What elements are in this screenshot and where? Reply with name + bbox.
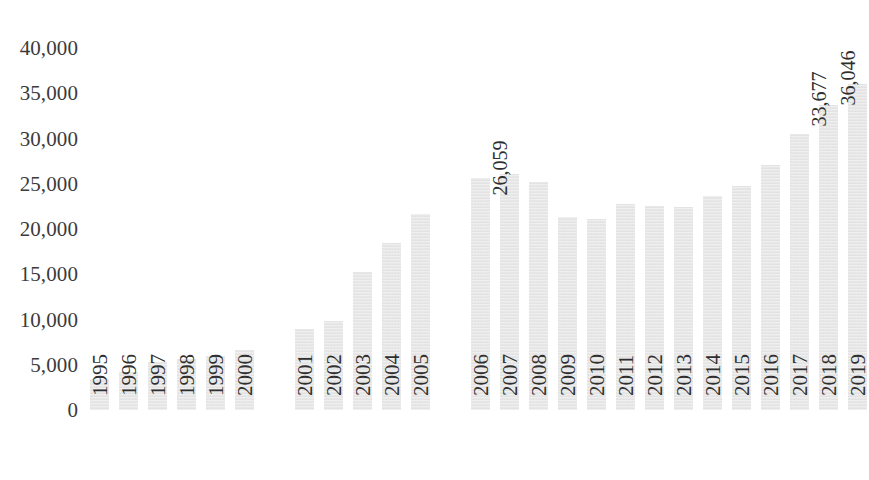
- bar-column: 1995: [90, 48, 109, 410]
- bar-column: 2015: [732, 48, 751, 410]
- x-axis-tick-label: 2010: [586, 354, 607, 396]
- bar-column: 2004: [382, 48, 401, 410]
- x-axis-tick-label: 1999: [205, 354, 226, 396]
- bar-column: 2013: [674, 48, 693, 410]
- x-axis-tick-label: 2000: [234, 354, 255, 396]
- x-axis-tick-label: 2001: [294, 354, 315, 396]
- bar-column: 2002: [324, 48, 343, 410]
- x-axis-tick-label: 2018: [818, 354, 839, 396]
- bar-column: 26,0592007: [500, 48, 519, 410]
- bar-value-label: 26,059: [490, 141, 510, 196]
- bar-column: 2017: [790, 48, 809, 410]
- x-axis-tick-label: 2017: [789, 354, 810, 396]
- x-axis-tick-label: 2011: [615, 355, 636, 396]
- bar-value-label: 36,046: [838, 50, 858, 105]
- y-axis-tick-label: 30,000: [20, 128, 78, 149]
- y-axis-tick-label: 40,000: [20, 38, 78, 59]
- y-axis-tick-label: 5,000: [30, 354, 78, 375]
- x-axis-tick-label: 2005: [410, 354, 431, 396]
- bar-value-label: 33,677: [809, 72, 829, 127]
- bar-column: 2014: [703, 48, 722, 410]
- y-axis: 40,00035,00030,00025,00020,00015,00010,0…: [0, 0, 86, 480]
- x-axis-tick-label: 1997: [147, 354, 168, 396]
- x-axis-tick-label: 2009: [557, 354, 578, 396]
- x-axis-tick-label: 1998: [176, 354, 197, 396]
- bar-column: 33,6772018: [819, 48, 838, 410]
- bar-column: 2008: [529, 48, 548, 410]
- x-axis-tick-label: 2008: [528, 354, 549, 396]
- bar-column: 1999: [206, 48, 225, 410]
- y-axis-tick-label: 0: [67, 400, 78, 421]
- bar-column: 2010: [587, 48, 606, 410]
- x-axis-tick-label: 2002: [323, 354, 344, 396]
- x-axis-tick-label: 2016: [760, 354, 781, 396]
- x-axis-tick-label: 2012: [644, 354, 665, 396]
- y-axis-tick-label: 25,000: [20, 173, 78, 194]
- bar-column: 1998: [177, 48, 196, 410]
- x-axis-tick-label: 2006: [470, 354, 491, 396]
- bar-column: 36,0462019: [848, 48, 867, 410]
- bar-column: 2011: [616, 48, 635, 410]
- x-axis-tick-label: 2007: [499, 354, 520, 396]
- bar-column: 2006: [471, 48, 490, 410]
- bar-column: 2000: [235, 48, 254, 410]
- y-axis-tick-label: 10,000: [20, 309, 78, 330]
- bar-column: 2003: [353, 48, 372, 410]
- x-axis-tick-label: 1996: [118, 354, 139, 396]
- bar-column: 1997: [148, 48, 167, 410]
- x-axis-tick-label: 2019: [847, 354, 868, 396]
- x-axis-tick-label: 2004: [381, 354, 402, 396]
- y-axis-tick-label: 15,000: [20, 264, 78, 285]
- y-axis-tick-label: 35,000: [20, 83, 78, 104]
- bar-column: 2012: [645, 48, 664, 410]
- bar-column: 2009: [558, 48, 577, 410]
- bar-column: 2016: [761, 48, 780, 410]
- plot-area: 1995199619971998199920002001200220032004…: [86, 0, 832, 480]
- x-axis-tick-label: 2013: [673, 354, 694, 396]
- x-axis-tick-label: 1995: [89, 354, 110, 396]
- bar-column: 2001: [295, 48, 314, 410]
- x-axis-tick-label: 2015: [731, 354, 752, 396]
- bar-column: 1996: [119, 48, 138, 410]
- y-axis-tick-label: 20,000: [20, 219, 78, 240]
- bar-column: 2005: [411, 48, 430, 410]
- x-axis-tick-label: 2003: [352, 354, 373, 396]
- x-axis-tick-label: 2014: [702, 354, 723, 396]
